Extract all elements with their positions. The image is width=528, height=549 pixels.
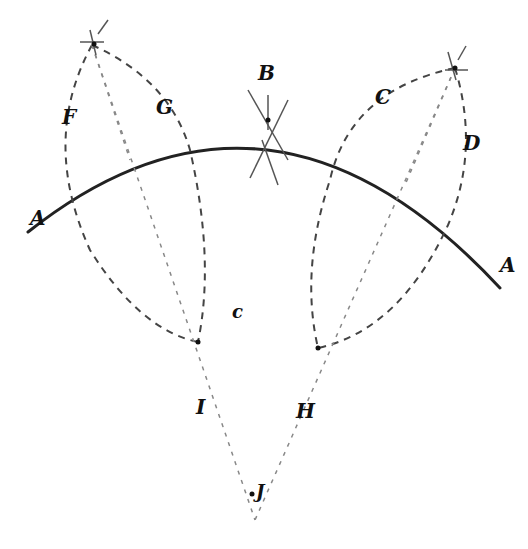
label-B: B: [257, 61, 275, 85]
point-H: [316, 346, 321, 351]
right-chord-line: [405, 68, 455, 185]
bisector-mark-B: [248, 90, 288, 185]
label-J: J: [253, 481, 266, 502]
right-radius-line: [255, 68, 455, 520]
point-J: [250, 492, 255, 497]
left-chord-line: [92, 45, 130, 160]
label-A-right: A: [498, 253, 516, 277]
left-radius-line: [92, 45, 255, 520]
left-inner-arc: [92, 45, 205, 342]
label-G: G: [156, 95, 173, 119]
left-apex-mark: [80, 20, 108, 55]
right-inner-arc: [311, 68, 455, 348]
label-H: H: [295, 399, 316, 423]
label-I: I: [195, 395, 206, 419]
label-A-left: A: [28, 206, 46, 230]
arc-center-construction-diagram: A A B C D F G c I H J: [0, 0, 528, 549]
label-C: C: [375, 85, 391, 109]
right-construction-arc: [318, 68, 466, 348]
point-I: [196, 340, 201, 345]
main-arc-AA: [28, 148, 500, 288]
label-F: F: [61, 105, 78, 129]
label-c: c: [232, 301, 243, 322]
label-D: D: [462, 131, 481, 155]
